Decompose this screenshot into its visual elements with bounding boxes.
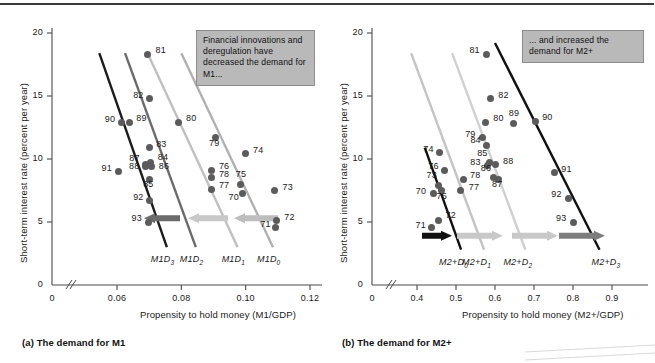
data-point-label: 86 [159, 161, 169, 171]
data-point-label: 78 [470, 170, 480, 180]
y-tick-label-zero: 0 [21, 279, 43, 289]
data-point-label: 72 [284, 212, 294, 222]
data-point-label: 90 [105, 114, 115, 124]
x-tick-label: 0.12 [290, 293, 330, 303]
data-point-label: 91 [561, 164, 571, 174]
panel-caption: (a) The demand for M1 [22, 337, 125, 348]
data-point [532, 118, 539, 125]
data-point-label: 86 [481, 163, 491, 173]
data-point [570, 219, 577, 226]
x-tick-label-zero: 0 [352, 293, 392, 303]
data-point [126, 119, 133, 126]
data-point-label: 90 [542, 112, 552, 122]
data-point-label: 88 [129, 161, 139, 171]
data-point-label: 85 [477, 148, 487, 158]
panel-demand-for-m1: 201510500.060.080.100.120Short-term inte… [0, 0, 330, 363]
x-tick-label: 0.4 [397, 293, 437, 303]
data-point-label: 92 [133, 192, 143, 202]
data-point [242, 150, 249, 157]
x-tick-label: 0.7 [514, 293, 554, 303]
data-point [145, 219, 152, 226]
data-point [237, 181, 244, 188]
data-point-label: 81 [156, 45, 166, 55]
data-point-label: 93 [132, 213, 142, 223]
y-axis-title: Short-term interest rate (percent per ye… [338, 83, 349, 263]
curve-label-M2+D3: M2+D3 [592, 257, 621, 269]
data-point-label: 83 [156, 139, 166, 149]
data-point [146, 197, 153, 204]
curve-label-M2+D2: M2+D2 [503, 257, 532, 269]
x-tick-label: 0.08 [161, 293, 201, 303]
x-axis-title: Propensity to hold money (M2+/GDP) [462, 309, 624, 320]
curve-label-M1D1: M1D1 [222, 254, 245, 266]
data-point-label: 82 [133, 90, 143, 100]
x-tick-label: 0.06 [97, 293, 137, 303]
data-point-label: 73 [426, 170, 436, 180]
data-point [492, 161, 499, 168]
x-tick-label: 0.9 [592, 293, 632, 303]
data-point-label: 70 [416, 186, 426, 196]
data-point [565, 195, 572, 202]
data-point [482, 119, 489, 126]
data-point [239, 190, 246, 197]
data-point-label: 93 [556, 213, 566, 223]
data-point-label: 81 [469, 45, 479, 55]
x-tick-label-zero: 0 [32, 293, 72, 303]
annotation-note-m2plus: ... and increased the demand for M2+ [522, 30, 644, 63]
annotation-note-m1: Financial innovations and deregulation h… [196, 30, 315, 86]
curve-label-M1D0: M1D0 [257, 254, 280, 266]
data-point-label: 72 [445, 210, 455, 220]
data-point-label: 75 [437, 191, 447, 201]
data-point-label: 87 [492, 179, 502, 189]
data-point-label: 84 [470, 135, 480, 145]
data-point-label: 80 [186, 113, 196, 123]
data-point-label: 77 [219, 180, 229, 190]
data-point [175, 119, 182, 126]
x-tick-label: 0.6 [475, 293, 515, 303]
curve-label-M1D2: M1D2 [180, 254, 203, 266]
data-point-label: 88 [503, 156, 513, 166]
data-point-label: 89 [136, 113, 146, 123]
data-point [144, 51, 151, 58]
data-point-label: 70 [228, 192, 238, 202]
data-point-label: 82 [498, 90, 508, 100]
curve-label-M1D3: M1D3 [151, 254, 174, 266]
y-tick-label-zero: 0 [341, 279, 363, 289]
data-point [146, 144, 153, 151]
data-point [146, 95, 153, 102]
data-point-label: 74 [423, 144, 433, 154]
x-axis-title: Propensity to hold money (M1/GDP) [140, 309, 296, 320]
data-point-label: 71 [260, 219, 270, 229]
data-point-label: 71 [415, 220, 425, 230]
y-tick-label: 20 [21, 27, 43, 37]
data-point [428, 224, 435, 231]
data-point-label: 80 [493, 113, 503, 123]
x-tick-label: 0.10 [226, 293, 266, 303]
data-point [487, 95, 494, 102]
y-tick-label: 20 [341, 27, 363, 37]
data-point-label: 89 [509, 108, 519, 118]
y-axis-title: Short-term interest rate (percent per ye… [18, 83, 29, 263]
data-point [460, 176, 467, 183]
data-point-label: 92 [551, 189, 561, 199]
panel-caption: (b) The demand for M2+ [342, 337, 452, 348]
data-point-label: 73 [283, 182, 293, 192]
data-point-label: 77 [469, 182, 479, 192]
data-point [272, 224, 279, 231]
x-tick-label: 0.5 [436, 293, 476, 303]
panel-demand-for-m2plus: 201510500.40.50.60.70.80.90Short-term in… [330, 0, 654, 363]
data-point [436, 149, 443, 156]
data-point [441, 167, 448, 174]
data-point-label: 75 [236, 169, 246, 179]
data-point-label: 79 [209, 138, 219, 148]
data-point [483, 51, 490, 58]
data-point-label: 85 [143, 179, 153, 189]
data-point [430, 190, 437, 197]
curve-label-M2+D1: M2+D1 [462, 257, 491, 269]
x-tick-label: 0.8 [553, 293, 593, 303]
data-point-label: 78 [219, 169, 229, 179]
data-point-label: 91 [102, 163, 112, 173]
data-point-label: 83 [470, 157, 480, 167]
data-point-label: 74 [253, 145, 263, 155]
